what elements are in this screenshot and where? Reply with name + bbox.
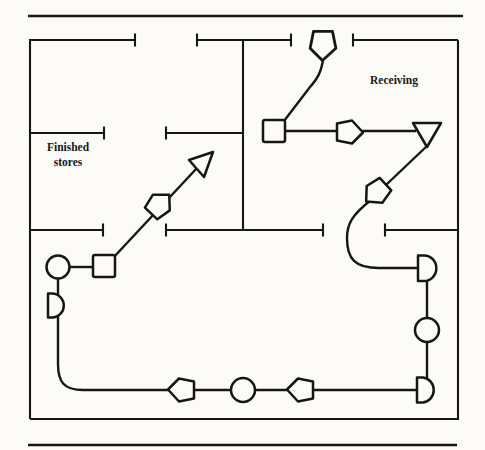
operation-circle-2-icon [231, 378, 255, 402]
connector-bottom-row [58, 274, 419, 390]
delay-d-1-icon [418, 256, 436, 282]
inspection-square-2-icon [93, 255, 115, 277]
operation-circle-1-icon [415, 318, 439, 342]
connector-entry-to-inspection [284, 60, 323, 121]
operation-circle-3-icon [47, 256, 70, 279]
inspection-square-1-icon [263, 120, 285, 142]
transport-up-right-arrow-icon [143, 187, 178, 222]
plant-walls [30, 40, 458, 419]
transport-left-arrow-1-icon [287, 379, 313, 402]
delay-d-3-icon [48, 294, 64, 318]
delay-d-2-icon [417, 378, 434, 403]
connector-curve-to-delay [347, 200, 419, 268]
receiving-label: Receiving [370, 74, 418, 87]
finished-stores-label-line2: stores [54, 156, 83, 168]
flow-diagram-figure: Receiving Finished stores [0, 0, 485, 450]
transport-right-arrow-icon [337, 121, 363, 144]
transport-entry-arrow-icon [310, 31, 336, 60]
transport-left-arrow-2-icon [168, 379, 194, 402]
storage-triangle-icon [413, 123, 441, 147]
flow-diagram-canvas: Receiving Finished stores [0, 0, 485, 450]
finished-stores-label-line1: Finished [47, 141, 90, 153]
